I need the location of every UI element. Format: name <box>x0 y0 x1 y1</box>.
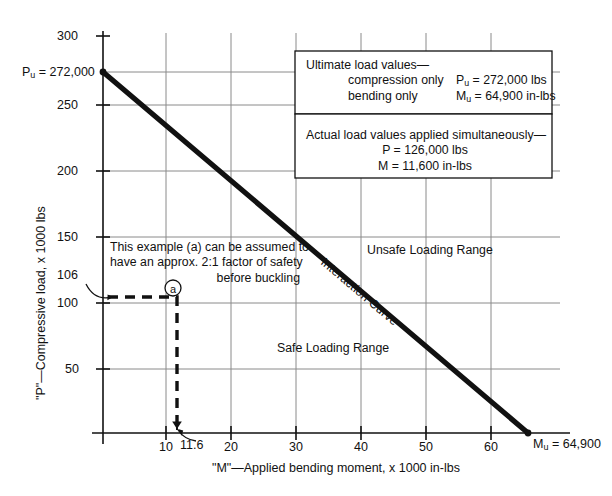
infobox-top-row2: compression onlyPu = 272,000 lbs <box>306 73 546 89</box>
curve-endpoint-pu <box>100 69 107 76</box>
y-tick-label-100: 100 <box>57 296 78 312</box>
example-note-line1: This example (a) can be assumed to <box>110 240 300 255</box>
x-tick-label-40: 40 <box>354 440 368 456</box>
infobox-top-row3-sym: M <box>456 89 466 103</box>
pu-value: = 272,000 <box>35 65 94 79</box>
example-a-guide-dashed <box>108 297 177 425</box>
x-tick-label-10: 10 <box>159 440 173 456</box>
x-tick-label-60: 60 <box>484 440 498 456</box>
pu-endpoint-label: Pu = 272,000 <box>22 65 95 81</box>
curve-endpoint-mu <box>525 430 532 437</box>
infobox-top-line1: Ultimate load values— <box>306 58 546 73</box>
infobox-actual-load: Actual load values applied simultaneousl… <box>306 128 544 174</box>
unsafe-loading-range-label: Unsafe Loading Range <box>367 243 493 258</box>
infobox-top-row3-left: bending only <box>348 89 456 104</box>
x-tick-label-50: 50 <box>419 440 433 456</box>
x-axis-title: "M"—Applied bending moment, x 1000 in-lb… <box>212 461 460 477</box>
mu-symbol: M <box>533 437 543 451</box>
example-note-line3: before buckling <box>110 271 300 286</box>
y-tick-label-200: 200 <box>57 164 78 180</box>
infobox-top-row3-val: = 64,900 in-lbs <box>471 89 555 103</box>
interaction-curve-figure: a 300 250 200 150 100 50 106 10 20 30 40… <box>0 0 612 496</box>
infobox-bottom-line3: M = 11,600 in-lbs <box>306 159 544 174</box>
x-tick-label-30: 30 <box>289 440 303 456</box>
infobox-top-row2-sym: P <box>456 73 464 87</box>
mu-endpoint-label: Mu = 64,900 <box>533 437 601 453</box>
y-tick-label-150: 150 <box>57 230 78 246</box>
infobox-bottom-line2: P = 126,000 lbs <box>306 143 544 158</box>
y-tick-label-106: 106 <box>57 268 78 284</box>
infobox-top-row3-right: Mu = 64,900 in-lbs <box>456 89 556 105</box>
example-note-line2: have an approx. 2:1 factor of safety <box>110 255 300 270</box>
mu-value: = 64,900 <box>548 437 600 451</box>
infobox-top-row2-right: Pu = 272,000 lbs <box>456 73 547 89</box>
safe-loading-range-label: Safe Loading Range <box>277 341 389 356</box>
x-tick-label-20: 20 <box>224 440 238 456</box>
x-tick-label-11-6: 11.6 <box>180 438 203 454</box>
y-tick-label-250: 250 <box>57 98 78 114</box>
infobox-bottom-line1: Actual load values applied simultaneousl… <box>306 128 544 143</box>
example-a-guide-arrowhead-bottom <box>172 422 182 430</box>
infobox-top-row2-val: = 272,000 lbs <box>469 73 547 87</box>
y-tick-label-50: 50 <box>65 362 79 378</box>
infobox-top-row2-left: compression only <box>348 73 456 88</box>
infobox-ultimate-load: Ultimate load values— compression onlyPu… <box>306 58 546 105</box>
example-note: This example (a) can be assumed to have … <box>110 240 300 286</box>
y-axis-title: "P"—Compressive load, x 1000 lbs <box>34 206 50 400</box>
y-tick-label-300: 300 <box>57 29 78 45</box>
infobox-top-row3: bending onlyMu = 64,900 in-lbs <box>306 89 546 105</box>
